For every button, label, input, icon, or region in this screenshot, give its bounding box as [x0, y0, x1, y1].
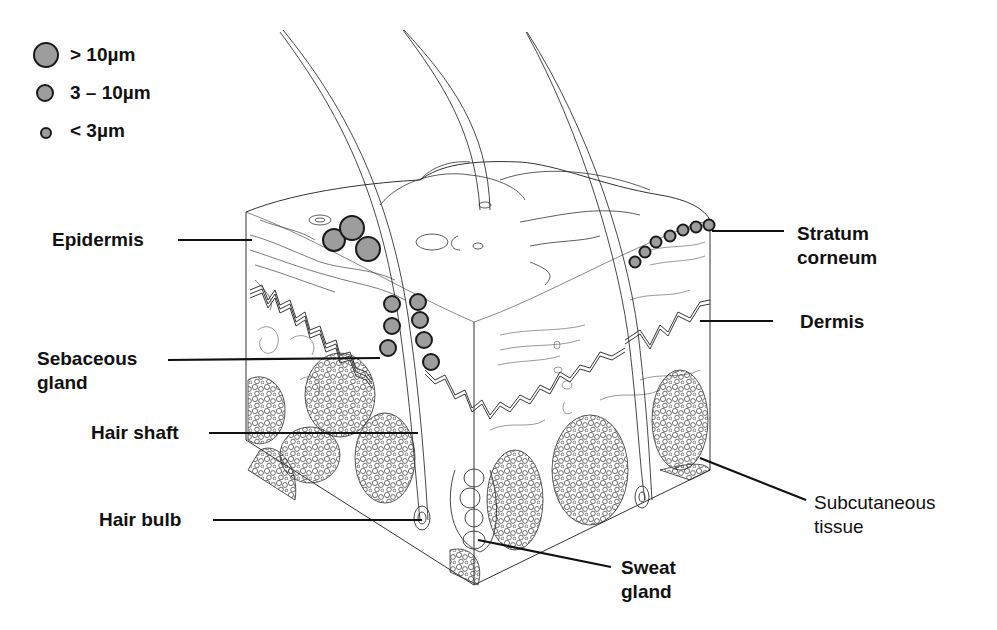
label-hair-shaft: Hair shaft	[91, 421, 179, 445]
label-dermis: Dermis	[800, 310, 864, 334]
label-sweat-gland: Sweat gland	[621, 556, 676, 604]
label-hair-bulb: Hair bulb	[99, 508, 181, 532]
skin-diagram: > 10µm 3 – 10µm < 3µm	[0, 0, 997, 630]
label-subcutaneous-tissue: Subcutaneous tissue	[814, 491, 936, 539]
label-stratum-corneum: Stratum corneum	[797, 222, 877, 270]
label-sebaceous-gland: Sebaceous gland	[37, 347, 137, 395]
label-epidermis: Epidermis	[52, 228, 144, 252]
